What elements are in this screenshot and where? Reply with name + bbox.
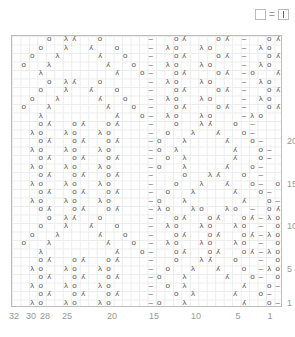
yarn-over-symbol: o (36, 86, 44, 95)
ssk-symbol: λ (163, 95, 171, 104)
k2tog-symbol: λ (214, 231, 222, 240)
k2tog-symbol: λ (113, 205, 121, 214)
yarn-over-symbol: o (138, 69, 146, 78)
k2tog-symbol: λ (79, 188, 87, 197)
yarn-over-symbol: o (206, 44, 214, 53)
yarn-over-symbol: o (36, 299, 44, 308)
yarn-over-symbol: o (163, 154, 171, 163)
ssk-symbol: λ (206, 171, 214, 180)
k2tog-symbol: λ (274, 86, 282, 95)
yarn-over-symbol: o (19, 61, 27, 70)
yarn-over-symbol: o (113, 86, 121, 95)
ssk-symbol: λ (265, 214, 273, 223)
ssk-symbol: λ (197, 78, 205, 87)
ssk-symbol: λ (197, 120, 205, 129)
ssk-symbol: λ (180, 197, 188, 206)
k2tog-symbol: λ (240, 197, 248, 206)
k2tog-symbol: λ (223, 137, 231, 146)
k2tog-symbol: λ (45, 137, 53, 146)
ssk-symbol: λ (62, 299, 70, 308)
ssk-symbol: λ (96, 197, 104, 206)
yarn-over-symbol: o (155, 273, 163, 282)
yarn-over-symbol: o (231, 205, 239, 214)
k2tog-symbol: λ (223, 69, 231, 78)
ssk-symbol: λ (53, 95, 61, 104)
ssk-symbol: λ (163, 239, 171, 248)
ssk-symbol: λ (28, 180, 36, 189)
ssk-symbol: λ (197, 95, 205, 104)
legend: = (255, 8, 289, 20)
yarn-over-symbol: o (172, 290, 180, 299)
yarn-over-symbol: o (265, 299, 273, 308)
k2tog-symbol: λ (214, 214, 222, 223)
ssk-symbol: λ (28, 146, 36, 155)
ssk-symbol: λ (189, 129, 197, 138)
k2tog-symbol: λ (45, 273, 53, 282)
yarn-over-symbol: o (214, 35, 222, 44)
ssk-symbol: λ (96, 146, 104, 155)
ssk-symbol: λ (257, 78, 265, 87)
ssk-symbol: λ (62, 197, 70, 206)
k2tog-symbol: λ (180, 35, 188, 44)
yarn-over-symbol: o (206, 61, 214, 70)
legend-equals: = (269, 9, 275, 20)
k2tog-symbol: λ (180, 69, 188, 78)
yarn-over-symbol: o (36, 205, 44, 214)
ssk-symbol: λ (197, 61, 205, 70)
ssk-symbol: λ (265, 231, 273, 240)
ssk-symbol: λ (62, 86, 70, 95)
column-number-label: 5 (235, 311, 240, 321)
k2tog-symbol: λ (79, 120, 87, 129)
k2tog-symbol: λ (113, 171, 121, 180)
ssk-symbol: λ (155, 205, 163, 214)
ssk-symbol: λ (96, 282, 104, 291)
yarn-over-symbol: o (113, 222, 121, 231)
ssk-symbol: λ (265, 265, 273, 274)
yarn-over-symbol: o (28, 95, 36, 104)
k2tog-symbol: λ (45, 171, 53, 180)
yarn-over-symbol: o (257, 112, 265, 121)
row-number-label: 20 (287, 136, 295, 146)
column-number-label: 30 (26, 311, 36, 321)
k2tog-symbol: λ (104, 239, 112, 248)
k2tog-symbol: λ (79, 171, 87, 180)
yarn-over-symbol: o (274, 180, 282, 189)
yarn-over-symbol: o (113, 44, 121, 53)
k2tog-symbol: λ (223, 273, 231, 282)
yarn-over-symbol: o (138, 248, 146, 257)
k2tog-symbol: λ (79, 154, 87, 163)
ssk-symbol: λ (257, 95, 265, 104)
k2tog-symbol: λ (180, 86, 188, 95)
column-number-label: 32 (9, 311, 19, 321)
k2tog-symbol: λ (113, 154, 121, 163)
yarn-over-symbol: o (248, 69, 256, 78)
k2tog-symbol: λ (274, 35, 282, 44)
yarn-over-symbol: o (240, 248, 248, 257)
ssk-symbol: λ (163, 112, 171, 121)
k2tog-symbol: λ (96, 231, 104, 240)
yarn-over-symbol: o (45, 35, 53, 44)
k2tog-symbol: λ (104, 61, 112, 70)
k2tog-symbol: λ (180, 103, 188, 112)
yarn-over-symbol: o (36, 222, 44, 231)
ssk-symbol: λ (189, 290, 197, 299)
column-number-label: 28 (40, 311, 50, 321)
k2tog-symbol: λ (45, 154, 53, 163)
ssk-symbol: λ (28, 265, 36, 274)
yarn-over-symbol: o (155, 163, 163, 172)
ssk-symbol: λ (180, 282, 188, 291)
yarn-over-symbol: o (206, 78, 214, 87)
yarn-over-symbol: o (130, 239, 138, 248)
yarn-over-symbol: o (155, 146, 163, 155)
k2tog-symbol: λ (96, 95, 104, 104)
k2tog-symbol: λ (223, 35, 231, 44)
yarn-over-symbol: o (138, 112, 146, 121)
yarn-over-symbol: o (45, 214, 53, 223)
k2tog-symbol: λ (45, 188, 53, 197)
yarn-over-symbol: o (265, 61, 273, 70)
ssk-symbol: λ (163, 44, 171, 53)
ssk-symbol: λ (172, 146, 180, 155)
ssk-symbol: λ (28, 299, 36, 308)
yarn-over-symbol: o (28, 231, 36, 240)
yarn-over-symbol: o (104, 205, 112, 214)
